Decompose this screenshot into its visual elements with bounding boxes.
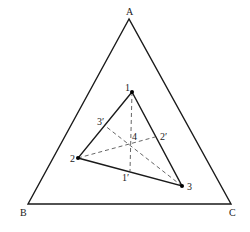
label-point-2-prime: 2′	[160, 131, 167, 142]
label-point-3: 3	[187, 181, 192, 192]
point-3-dot	[180, 184, 184, 188]
label-vertex-a: A	[126, 6, 134, 17]
point-1-dot	[130, 90, 134, 94]
label-point-1-prime: 1′	[122, 172, 129, 183]
point-2-dot	[76, 156, 80, 160]
label-point-4: 4	[132, 131, 137, 142]
dashed-line-2-to-2prime	[78, 137, 155, 158]
label-point-1: 1	[125, 82, 130, 93]
label-vertex-c: C	[229, 207, 236, 218]
label-point-2: 2	[70, 153, 75, 164]
ternary-diagram: A B C 1 2 3 4 1′ 2′ 3′	[0, 0, 250, 232]
dashed-line-3-to-3prime	[104, 125, 182, 186]
outer-triangle-abc	[28, 19, 231, 204]
label-point-3-prime: 3′	[97, 116, 104, 127]
label-vertex-b: B	[20, 207, 27, 218]
